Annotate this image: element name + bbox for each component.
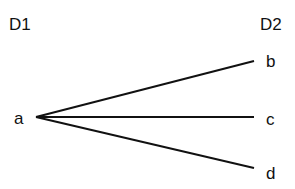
edge-a-b (36, 61, 254, 117)
edges (0, 0, 295, 189)
edge-a-d (36, 117, 254, 168)
